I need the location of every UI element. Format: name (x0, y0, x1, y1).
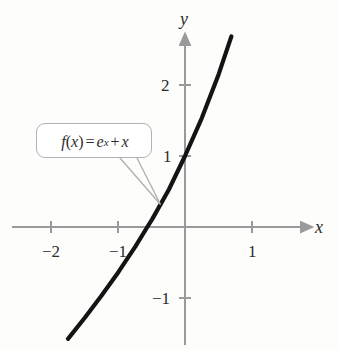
y-tick-label-1: 1 (163, 148, 172, 165)
function-graph-figure: f(x)=ex+x −2 −1 1 2 1 −1 y x (0, 0, 338, 350)
formula-arg: x (71, 133, 78, 151)
x-tick-label-pos1: 1 (248, 243, 257, 260)
formula-plus: + (109, 133, 122, 151)
x-tick-label-neg2: −2 (42, 243, 60, 260)
x-tick-label-neg1: −1 (109, 243, 127, 260)
x-axis-label: x (315, 218, 323, 236)
y-tick-label-neg1: −1 (152, 290, 170, 307)
function-curve (68, 36, 231, 339)
formula-base: e (97, 133, 104, 151)
formula-equals: = (84, 133, 97, 151)
callout-pointer (120, 158, 161, 205)
function-label-callout: f(x)=ex+x (36, 123, 152, 158)
y-axis-label: y (180, 10, 188, 28)
y-tick-label-2: 2 (161, 77, 170, 94)
callout-formula-text: f(x)=ex+x (37, 124, 153, 159)
formula-term: x (122, 133, 129, 151)
